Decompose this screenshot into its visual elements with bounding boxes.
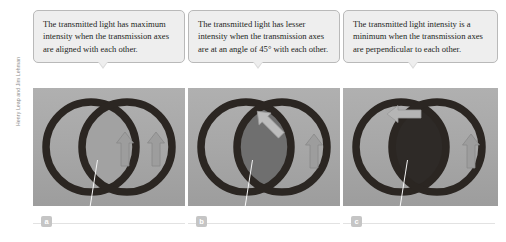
callout-b-tail [253, 62, 263, 69]
panel-label-c: c [351, 216, 362, 227]
panel-a: The transmitted light has maximum intens… [33, 0, 185, 242]
panel-label-a: a [41, 216, 52, 227]
photo-c [343, 88, 498, 206]
panel-c: The transmitted light intensity is a min… [343, 0, 495, 242]
callout-b: The transmitted light has lesser intensi… [188, 10, 340, 63]
callout-a-tail [98, 62, 108, 69]
panel-label-b: b [196, 216, 207, 227]
callout-a: The transmitted light has maximum intens… [33, 10, 185, 63]
rule-line-c [343, 223, 495, 224]
label-rule-c: c [343, 216, 498, 230]
callout-b-text: The transmitted light has lesser intensi… [198, 19, 328, 54]
photo-a [33, 88, 185, 206]
photo-b [188, 88, 340, 206]
callout-c: The transmitted light intensity is a min… [343, 10, 498, 63]
rule-line-a [33, 223, 185, 224]
photo-credit: Henry Leap and Jim Lehman [14, 30, 22, 126]
callout-c-text: The transmitted light intensity is a min… [353, 19, 483, 54]
callout-a-text: The transmitted light has maximum intens… [43, 19, 169, 54]
label-rule-a: a [33, 216, 185, 230]
label-rule-b: b [188, 216, 340, 230]
rule-line-b [188, 223, 340, 224]
callout-c-tail [408, 62, 418, 69]
panel-b: The transmitted light has lesser intensi… [188, 0, 340, 242]
polarization-figure: Henry Leap and Jim Lehman The transmitte… [0, 0, 506, 242]
